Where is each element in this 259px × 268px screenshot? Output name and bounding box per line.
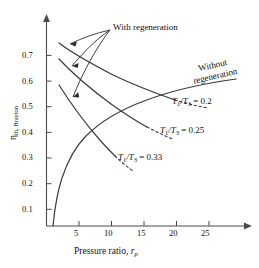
annotation-ratio-0.33: T1/T3 = 0.33 (118, 152, 162, 162)
ratio-t3-sub: 3 (134, 156, 137, 163)
y-tick-label-0.2: 0.2 (22, 178, 33, 188)
y-tick-label-0.5: 0.5 (22, 101, 33, 111)
annotation-ratio-0.2: T1/T3 = 0.2 (172, 96, 212, 106)
x-tick-label-5: 5 (74, 228, 78, 238)
y-axis-ticks (47, 55, 52, 209)
x-axis-ticks (79, 221, 209, 226)
axis-lines (43, 14, 252, 229)
x-tick-label-20: 20 (169, 228, 178, 238)
y-axis-symbol-sub: th, Brayton (12, 106, 19, 135)
y-axis-title: ηth, Brayton (8, 92, 18, 154)
y-tick-label-0.4: 0.4 (22, 127, 33, 137)
y-tick-label-0.1: 0.1 (22, 204, 33, 214)
chart-plot-area (0, 0, 259, 268)
y-tick-label-0.7: 0.7 (22, 50, 33, 60)
ratio-value-0.33: = 0.33 (137, 152, 162, 162)
y-axis-symbol: η (8, 135, 18, 140)
ratio-t1-sub: 1 (165, 129, 168, 136)
ratio-t3-sub: 3 (188, 100, 191, 107)
ratio-t1-sub: 1 (123, 156, 126, 163)
x-axis-title: Pressure ratio, rp (74, 246, 138, 256)
x-axis-title-text: Pressure ratio, (74, 246, 131, 256)
ratio-t3-sub: 3 (176, 129, 179, 136)
ratio-value-0.2: = 0.2 (191, 96, 212, 106)
x-tick-label-10: 10 (104, 228, 113, 238)
y-tick-label-0.3: 0.3 (22, 152, 33, 162)
chart-figure: 5 10 15 20 25 0.7 0.6 0.5 0.4 0.3 0.2 0.… (0, 0, 259, 268)
annotation-arrowheads (70, 42, 79, 98)
curve-with-regeneration-020-solid (59, 43, 175, 100)
ratio-t1-sub: 1 (177, 100, 180, 107)
annotation-ratio-0.25: T1/T3 = 0.25 (160, 125, 204, 135)
annotation-with-regeneration: With regeneration (113, 22, 178, 32)
x-axis-symbol-sub: p (134, 250, 137, 257)
x-tick-label-15: 15 (137, 228, 146, 238)
x-tick-label-25: 25 (201, 228, 210, 238)
y-tick-label-0.6: 0.6 (22, 76, 33, 86)
ratio-value-0.25: = 0.25 (179, 125, 204, 135)
curve-with-regeneration-033-solid (59, 85, 115, 156)
